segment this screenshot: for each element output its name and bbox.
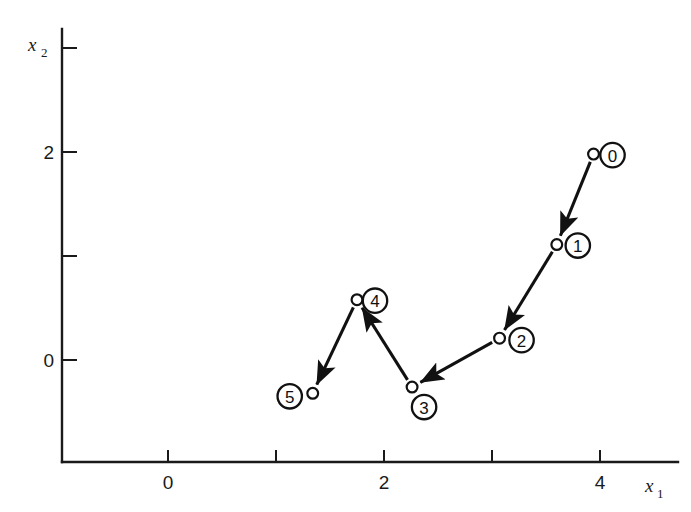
scatter-line-plot: 02 024 x 2 x 1 012345 (0, 0, 691, 512)
y-tick-label-0: 0 (43, 350, 54, 371)
data-point-5 (307, 388, 318, 399)
data-point-0 (588, 149, 599, 160)
data-point-2 (494, 333, 505, 344)
data-point-markers (307, 149, 599, 399)
path-arrow-1 (505, 252, 553, 330)
x-axis-label-subscript: 1 (657, 486, 664, 501)
x-axis-label: x 1 (644, 475, 664, 501)
path-arrow-2 (420, 342, 492, 382)
x-tick-label-2: 2 (379, 472, 390, 493)
path-arrow-0 (560, 162, 590, 236)
y-axis-label: x 2 (27, 34, 48, 60)
y-axis-label-base: x (27, 34, 37, 55)
point-badge-label-0: 0 (608, 147, 617, 166)
point-badge-label-5: 5 (285, 388, 294, 407)
y-tick-label-2: 2 (43, 142, 54, 163)
x-axis-label-base: x (644, 475, 654, 496)
x-axis-ticks: 024 (163, 450, 606, 493)
data-point-3 (407, 382, 418, 393)
point-badge-label-1: 1 (573, 237, 582, 256)
path-arrow-4 (317, 307, 354, 384)
y-axis-label-subscript: 2 (41, 45, 48, 60)
data-point-4 (352, 294, 363, 305)
figure-canvas: 02 024 x 2 x 1 012345 (0, 0, 691, 512)
x-tick-label-0: 0 (163, 472, 174, 493)
point-badge-label-3: 3 (419, 399, 428, 418)
path-segments (317, 162, 591, 385)
path-arrow-3 (362, 308, 407, 380)
x-tick-label-4: 4 (595, 472, 606, 493)
y-axis-ticks: 02 (43, 48, 77, 371)
data-point-1 (551, 239, 562, 250)
point-badge-label-2: 2 (517, 332, 526, 351)
point-badge-label-4: 4 (370, 292, 379, 311)
point-index-badges: 012345 (278, 143, 625, 419)
